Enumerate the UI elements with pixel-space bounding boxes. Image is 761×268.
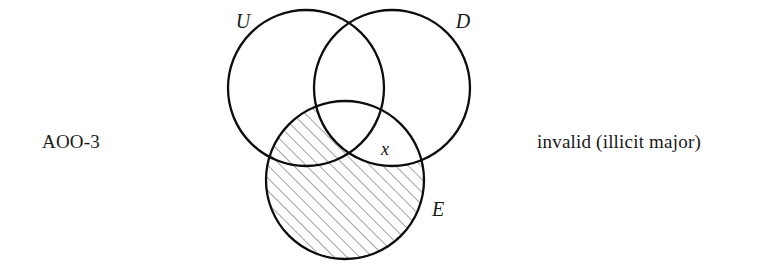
circle-label-u: U xyxy=(236,10,252,32)
validity-verdict-label: invalid (illicit major) xyxy=(537,132,701,151)
venn-figure: AOO-3 U D E x inval xyxy=(0,0,761,268)
circle-label-e: E xyxy=(431,198,444,220)
x-mark: x xyxy=(380,139,389,159)
circle-label-d: D xyxy=(455,10,471,32)
